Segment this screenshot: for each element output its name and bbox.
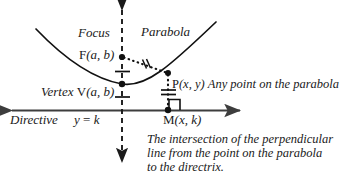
point-m-label: M(x, k) — [163, 113, 201, 127]
point-p-dot — [165, 70, 171, 76]
directrix-equation-label: y = k — [74, 113, 99, 127]
directrix-equation-operator: = — [80, 112, 94, 127]
directrix-equation-rhs: k — [94, 112, 100, 127]
focus-label: Focus — [78, 26, 110, 40]
vertex-point-name: V — [77, 84, 86, 99]
vertex-point-args: (a, b) — [86, 84, 114, 99]
caption-line-3: to the directrix. — [147, 161, 333, 174]
vertex-label: Vertex V(a, b) — [41, 85, 114, 99]
point-m-args: (x, k) — [175, 112, 202, 127]
directive-label: Directive — [10, 113, 58, 127]
focus-to-p-segment — [124, 58, 166, 73]
figure-caption: The intersection of the perpendicular li… — [147, 133, 333, 175]
caption-line-1: The intersection of the perpendicular — [147, 133, 333, 146]
parabola-figure: Focus Parabola F(a, b) Vertex V(a, b) P(… — [0, 0, 357, 190]
focus-point-label: F(a, b) — [79, 48, 114, 62]
caption-line-2: line from the point on the parabola — [147, 147, 333, 160]
vertex-word: Vertex — [41, 84, 73, 99]
point-p-name: P — [172, 77, 179, 91]
point-p-args: (x, y) — [179, 77, 205, 91]
point-m-name: M — [163, 112, 175, 127]
vertex-point-dot — [119, 81, 125, 87]
focus-point-dot — [119, 54, 125, 60]
focus-point-args: (a, b) — [86, 47, 114, 62]
congruence-tick-focus-p — [143, 59, 151, 69]
parabola-label: Parabola — [141, 25, 190, 39]
point-p-label: P(x, y) Any point on the parabola — [172, 78, 339, 91]
point-p-description: Any point on the parabola — [208, 77, 339, 91]
